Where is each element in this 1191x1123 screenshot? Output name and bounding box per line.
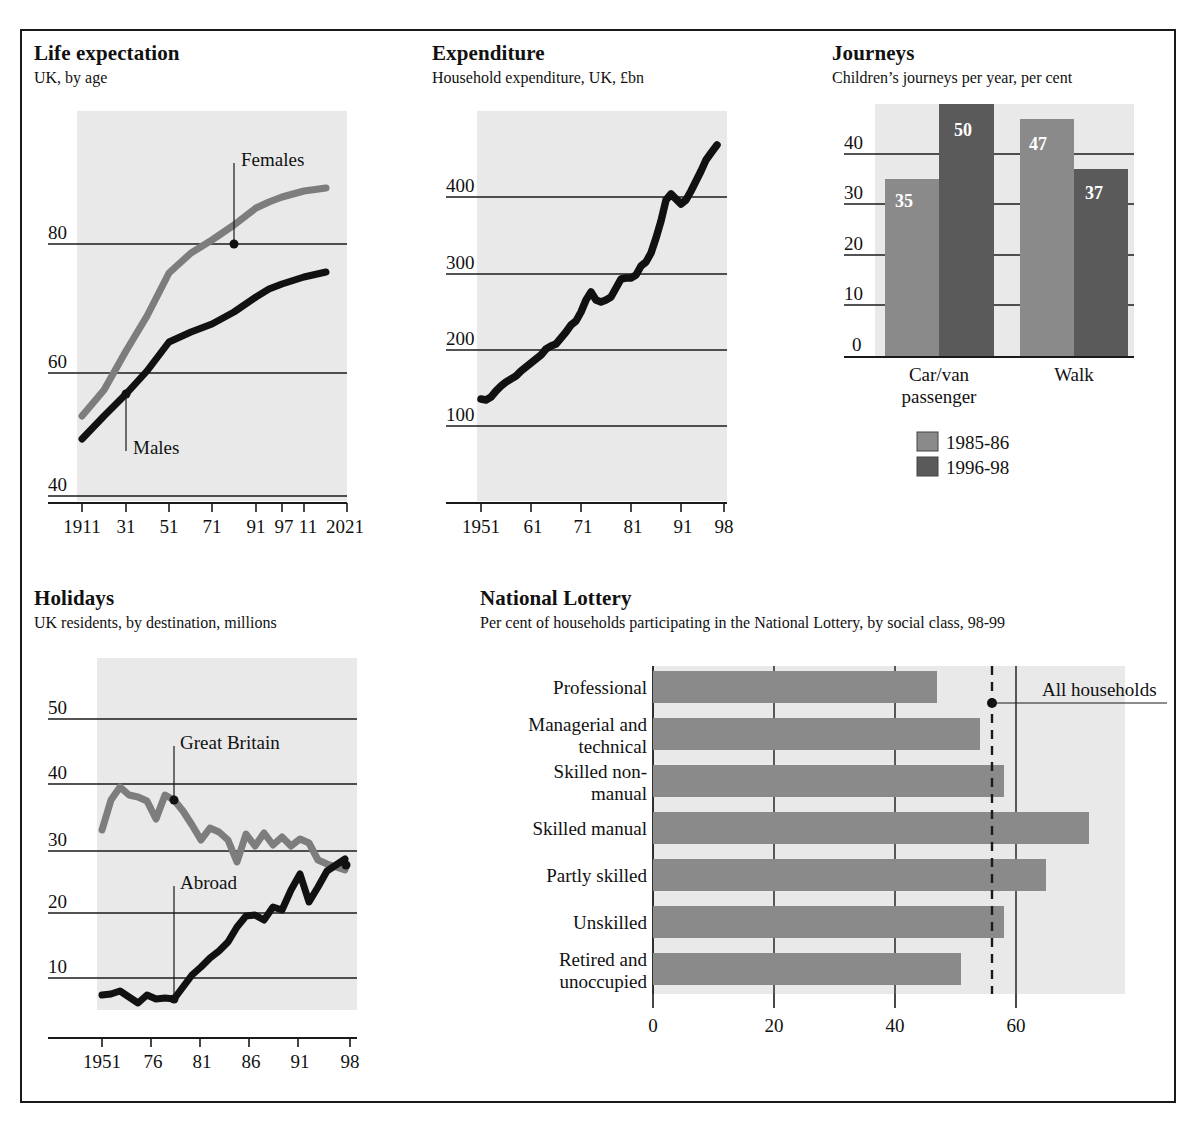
bar-carvan-1996 [939,104,994,356]
abroad-anchor-dot [170,995,179,1004]
xtick-label: 51 [160,516,179,537]
panel-title: Life expectation [34,41,364,65]
xtick-label: 91 [674,516,693,537]
legend-label-1996: 1996-98 [946,457,1009,478]
bar-unskilled [653,906,1004,938]
category-label-partly-skilled: Partly skilled [546,865,647,886]
xtick-label: 11 [299,516,317,537]
panel-subtitle: UK residents, by destination, millions [34,613,374,632]
ytick-label: 200 [446,328,475,349]
ytick-label: 30 [844,182,863,203]
xtick-label: 81 [624,516,643,537]
series-label-great-britain: Great Britain [180,732,280,753]
bar-skilled-manual [653,812,1089,844]
ytick-label: 100 [446,404,475,425]
xtick-label: 1911 [63,516,100,537]
plot-background [77,111,347,501]
panel-subtitle: Per cent of households participating in … [480,613,1170,632]
category-label-carvan: Car/van [909,364,970,385]
ytick-label: 300 [446,252,475,273]
figure-frame: Life expectation UK, by age 80 60 40 Fem… [20,29,1176,1103]
xtick-label: 98 [715,516,734,537]
panel-life-expectation: Life expectation UK, by age 80 60 40 Fem… [34,41,364,541]
panel-holidays: Holidays UK residents, by destination, m… [34,586,374,1096]
xtick-label: 98 [341,1051,360,1072]
panel-subtitle: Household expenditure, UK, £bn [432,68,762,87]
xtick-label: 1951 [83,1051,121,1072]
category-label-skilled-non-manual-2: manual [591,783,647,804]
ytick-label: 20 [48,891,67,912]
annotation-all-households: All households [1042,679,1157,700]
bar-professional [653,671,937,703]
plot-background [477,111,727,501]
life-expectation-chart: 80 60 40 Females Males 19 [34,103,364,543]
national-lottery-chart: All households Professional Managerial a… [480,646,1170,1076]
xtick-label: 31 [117,516,136,537]
panel-title: Expenditure [432,41,762,65]
panel-subtitle: UK, by age [34,68,364,87]
ytick-label: 50 [48,697,67,718]
xtick-label: 60 [1007,1015,1026,1036]
xtick-label: 86 [242,1051,261,1072]
bar-retired-unoccupied [653,953,961,985]
ytick-label: 40 [844,132,863,153]
bar-walk-1985 [1020,119,1074,356]
bar-value-walk-1996: 37 [1085,183,1103,203]
ytick-label: 10 [844,283,863,304]
ytick-label: 30 [48,829,67,850]
category-label-managerial-2: technical [578,736,647,757]
holidays-chart: 50 40 30 20 10 Great Britain Abroad [34,648,374,1098]
xtick-label: 20 [765,1015,784,1036]
journeys-chart: 40 30 20 10 0 35 50 47 37 Car/van passen… [832,99,1162,519]
ytick-label: 400 [446,175,475,196]
category-label-skilled-non-manual-1: Skilled non- [554,761,647,782]
plot-background [97,658,357,1010]
category-label-retired-1: Retired and [559,949,648,970]
panel-title: Journeys [832,41,1162,65]
category-label-managerial-1: Managerial and [528,714,647,735]
ytick-label: 60 [48,351,67,372]
xtick-label: 81 [193,1051,212,1072]
males-anchor-dot [122,390,131,399]
series-label-males: Males [133,437,179,458]
xtick-label: 71 [203,516,222,537]
legend-swatch-1996 [917,457,938,476]
xtick-label: 91 [247,516,266,537]
panel-journeys: Journeys Children’s journeys per year, p… [832,41,1162,541]
xtick-label: 97 [275,516,294,537]
xtick-label: 1951 [462,516,500,537]
ytick-label: 20 [844,233,863,254]
xtick-label: 0 [648,1015,658,1036]
ytick-label: 10 [48,956,67,977]
category-label-skilled-manual: Skilled manual [532,818,647,839]
ytick-label: 40 [48,762,67,783]
expenditure-chart: 400 300 200 100 1951 61 71 81 91 98 [432,103,762,543]
convergence-dot [342,861,351,870]
panel-expenditure: Expenditure Household expenditure, UK, £… [432,41,762,541]
series-label-abroad: Abroad [180,872,237,893]
panel-title: National Lottery [480,586,1170,610]
panel-title: Holidays [34,586,374,610]
great-britain-anchor-dot [170,796,179,805]
category-label-unskilled: Unskilled [573,912,647,933]
xtick-label: 71 [574,516,593,537]
bar-skilled-non-manual [653,765,1004,797]
panel-national-lottery: National Lottery Per cent of households … [480,586,1170,1096]
xtick-label: 40 [886,1015,905,1036]
ytick-label: 0 [852,334,862,355]
females-anchor-dot [230,240,239,249]
bar-value-carvan-1985: 35 [895,191,913,211]
xtick-label: 76 [144,1051,163,1072]
ytick-label: 40 [48,474,67,495]
panel-subtitle: Children’s journeys per year, per cent [832,68,1162,87]
bar-partly-skilled [653,859,1046,891]
legend-label-1985: 1985-86 [946,432,1009,453]
category-label-walk: Walk [1054,364,1094,385]
xtick-label: 61 [524,516,543,537]
xtick-label: 91 [291,1051,310,1072]
bar-value-carvan-1996: 50 [954,120,972,140]
category-label-professional: Professional [553,677,647,698]
legend-swatch-1985 [917,432,938,451]
bar-value-walk-1985: 47 [1029,134,1047,154]
category-label-retired-2: unoccupied [559,971,647,992]
